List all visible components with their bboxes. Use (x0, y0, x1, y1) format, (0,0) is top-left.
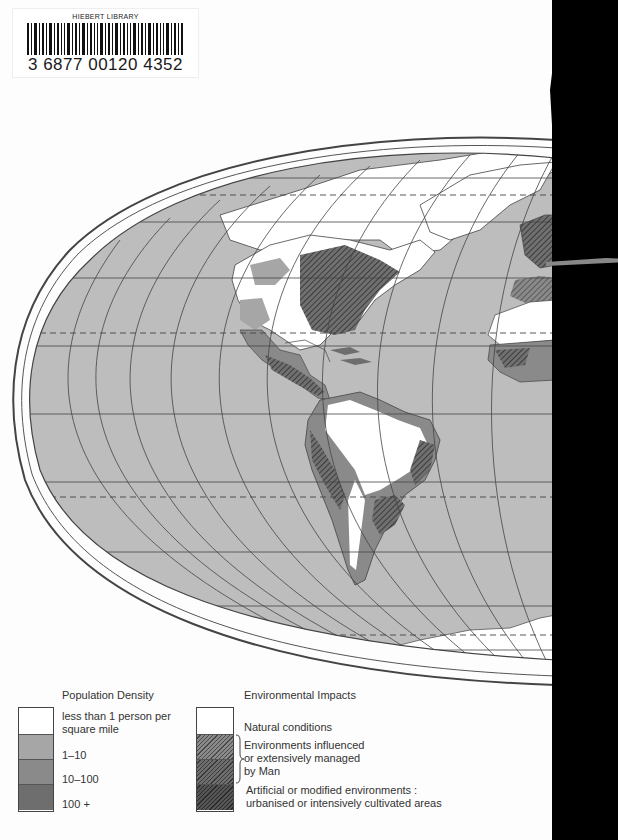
legend-label-line: square mile (62, 723, 171, 736)
world-map (0, 130, 560, 690)
swatch-influenced-light (197, 735, 233, 760)
swatch-influenced-dark (197, 760, 233, 785)
legend-label-line: urbanised or intensively cultivated area… (246, 797, 442, 810)
book-page: HIEBERT LIBRARY (0, 0, 618, 840)
legend-label-line: or extensively managed (244, 752, 364, 765)
barcode-number: 3 6877 00120 4352 (13, 55, 198, 75)
legend-label-line: less than 1 person per (62, 710, 171, 723)
legend-label-1-10: 1–10 (62, 749, 86, 762)
swatch-1-10 (19, 735, 53, 760)
environmental-impacts-swatches (196, 707, 234, 812)
legend-label-influenced: Environments influenced or extensively m… (244, 739, 364, 778)
swatch-less-than-1 (19, 708, 53, 735)
swatch-artificial (197, 785, 233, 810)
legend-label-line: Artificial or modified environments : (246, 784, 442, 797)
library-name: HIEBERT LIBRARY (13, 13, 198, 20)
legend-label-natural-conditions: Natural conditions (244, 721, 332, 734)
environmental-impacts-title: Environmental Impacts (244, 689, 356, 701)
library-barcode-label: HIEBERT LIBRARY (12, 8, 199, 78)
swatch-natural-conditions (197, 708, 233, 735)
population-density-swatches (18, 707, 54, 812)
brace-icon (234, 734, 244, 784)
legend-label-line: Environments influenced (244, 739, 364, 752)
legend-label-line: by Man (244, 765, 364, 778)
legend-label-artificial: Artificial or modified environments : ur… (246, 784, 442, 810)
legend-label-less-than-1: less than 1 person per square mile (62, 710, 171, 736)
swatch-100-plus (19, 785, 53, 810)
barcode-icon (27, 23, 185, 55)
population-density-title: Population Density (62, 689, 154, 701)
legend-label-10-100: 10–100 (62, 773, 99, 786)
swatch-10-100 (19, 760, 53, 785)
legend-label-100-plus: 100 + (62, 798, 90, 811)
scan-binding-edge (552, 0, 618, 840)
